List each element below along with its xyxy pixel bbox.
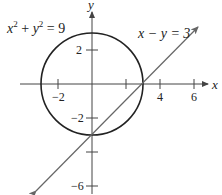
- x-tick-label-6: 6: [191, 90, 197, 104]
- line-equation-label: x − y = 3: [137, 26, 190, 41]
- graph-canvas: x y −2 4 6 2 −2 −6 x2 + y2 = 9 x − y = 3: [0, 0, 222, 195]
- graph-figure: x y −2 4 6 2 −2 −6 x2 + y2 = 9 x − y = 3: [0, 0, 222, 195]
- line-curve: [36, 27, 198, 191]
- x-tick-label-4: 4: [157, 90, 163, 104]
- x-axis-label: x: [211, 77, 218, 92]
- x-tick-label-neg2: −2: [52, 90, 65, 104]
- circle-equation-label: x2 + y2 = 9: [6, 19, 65, 36]
- y-tick-label-neg2: −2: [71, 111, 84, 125]
- y-tick-label-2: 2: [76, 43, 82, 57]
- y-tick-label-neg6: −6: [71, 179, 84, 193]
- y-axis-label: y: [86, 0, 94, 12]
